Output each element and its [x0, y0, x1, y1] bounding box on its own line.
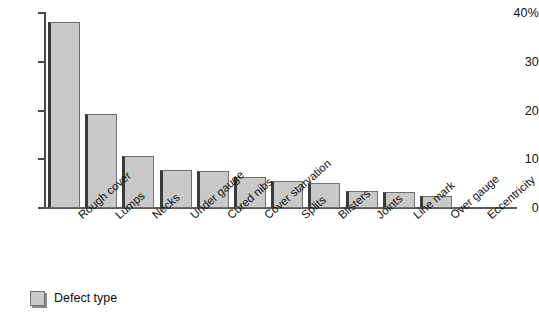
x-axis-label: Cured nibs — [225, 212, 233, 221]
x-axis-label: Under gauge — [188, 212, 196, 221]
x-axis-label: Lumps — [113, 212, 121, 221]
y-axis-tick — [38, 110, 45, 112]
pareto-bar-chart: 010203040% Rough coverLumpsNecksUnder ga… — [0, 0, 539, 322]
x-axis-label: Rough cover — [76, 212, 84, 221]
y-axis-tick — [38, 12, 45, 14]
x-axis-label: Cover starvation — [262, 212, 270, 221]
x-axis-label: Splits — [299, 212, 307, 221]
legend-label: Defect type — [54, 292, 117, 305]
y-axis-tick — [38, 61, 45, 63]
x-axis-label: Blisters — [336, 212, 344, 221]
x-axis-label: Eccentricity — [485, 212, 493, 221]
x-axis-labels: Rough coverLumpsNecksUnder gaugeCured ni… — [0, 208, 539, 278]
x-axis-label: Necks — [150, 212, 158, 221]
x-axis-label: Over gauge — [448, 212, 456, 221]
legend-swatch-icon — [30, 291, 45, 306]
bar — [48, 22, 80, 208]
x-axis-label: Joints — [374, 212, 382, 221]
chart-legend: Defect type — [30, 291, 117, 306]
x-axis-label: Line mark — [411, 212, 419, 221]
y-axis-tick — [38, 158, 45, 160]
